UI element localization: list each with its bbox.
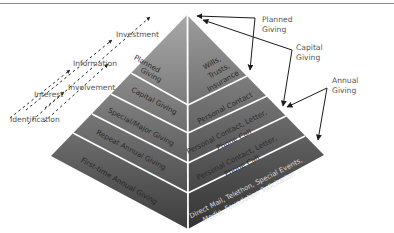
callout-capital-giving-line2: Giving — [296, 53, 320, 62]
callout-planned-giving: Planned — [262, 15, 293, 24]
callout-planned-giving-line2: Giving — [262, 25, 286, 34]
callout-capital-giving: Capital — [296, 43, 323, 52]
callout-annual-giving-line2: Giving — [332, 86, 356, 95]
stage-investment: Investment — [116, 30, 159, 39]
stage-involvement: Involvement — [68, 83, 115, 92]
stage-interest: Interest — [34, 90, 63, 99]
donor-pyramid-diagram: Planned Giving Capital Giving Special/Ma… — [0, 0, 394, 233]
stage-information: Information — [73, 59, 117, 68]
stage-identification: Identification — [10, 115, 60, 124]
callout-labels: Planned Giving Capital Giving Annual Giv… — [262, 15, 358, 95]
callout-annual-giving: Annual — [332, 76, 358, 85]
